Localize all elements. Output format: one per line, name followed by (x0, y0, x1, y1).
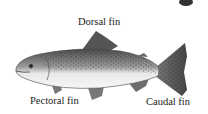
label-pectoral-fin: Pectoral fin (30, 96, 79, 107)
label-dorsal-fin: Dorsal fin (78, 17, 120, 28)
label-caudal-fin: Caudal fin (146, 97, 190, 108)
decorative-blob (179, 0, 193, 6)
eye (29, 64, 33, 68)
